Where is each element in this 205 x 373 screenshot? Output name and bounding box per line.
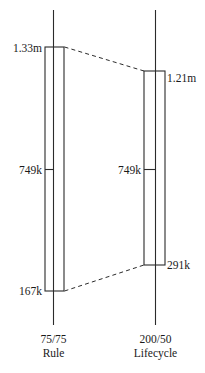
right-category-label-line1: 200/50 bbox=[140, 333, 172, 345]
range-comparison-chart: 1.33m 749k 167k 1.21m 749k 291k 75/75 Ru… bbox=[0, 0, 205, 373]
left-median-value-label: 749k bbox=[19, 164, 42, 176]
right-category-label-line2: Lifecycle bbox=[134, 347, 177, 360]
right-range-box bbox=[144, 71, 165, 265]
bottom-connector-dashed-line bbox=[65, 265, 145, 291]
right-high-value-label: 1.21m bbox=[167, 72, 196, 84]
right-median-value-label: 749k bbox=[118, 164, 141, 176]
group-right-200-50-lifecycle bbox=[144, 10, 165, 325]
top-connector-dashed-line bbox=[65, 47, 145, 71]
chart-canvas: 1.33m 749k 167k 1.21m 749k 291k 75/75 Ru… bbox=[0, 0, 205, 373]
left-low-value-label: 167k bbox=[19, 285, 42, 297]
left-high-value-label: 1.33m bbox=[13, 42, 42, 54]
left-category-label-line1: 75/75 bbox=[40, 333, 66, 345]
left-category-label-line2: Rule bbox=[43, 347, 65, 359]
group-left-75-75-rule bbox=[45, 10, 64, 325]
right-low-value-label: 291k bbox=[167, 259, 190, 271]
